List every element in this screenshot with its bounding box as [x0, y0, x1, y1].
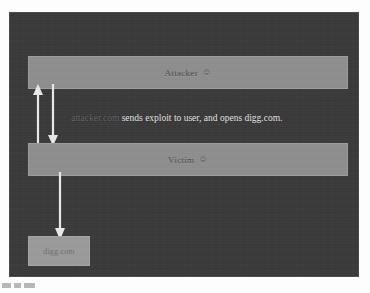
cropped-caption-fragment	[2, 283, 46, 290]
presentation-slide: Attacker ☺ attacker.com sends exploit to…	[9, 12, 359, 277]
flow-caption: attacker.com sends exploit to user, and …	[71, 112, 359, 125]
attacker-node: Attacker ☺	[28, 56, 348, 89]
victim-node-label: Victim	[168, 155, 194, 165]
smiley-face-icon: ☺	[198, 155, 208, 164]
digg-node: digg.com	[28, 236, 90, 266]
crop-mark	[24, 283, 35, 288]
crop-mark	[2, 283, 11, 288]
digg-node-label: digg.com	[43, 247, 75, 256]
crop-mark	[14, 283, 21, 288]
attacker-node-label: Attacker	[165, 68, 198, 78]
edge-attacker-to-victim	[46, 84, 60, 146]
caption-rest: sends exploit to user, and opens digg.co…	[119, 113, 282, 123]
caption-domain: attacker.com	[71, 113, 119, 123]
edge-victim-to-digg	[53, 172, 67, 240]
victim-node: Victim ☺	[28, 143, 348, 176]
page-background: Attacker ☺ attacker.com sends exploit to…	[0, 0, 370, 293]
edge-victim-to-attacker	[31, 84, 45, 146]
smiley-face-icon: ☺	[202, 68, 212, 77]
